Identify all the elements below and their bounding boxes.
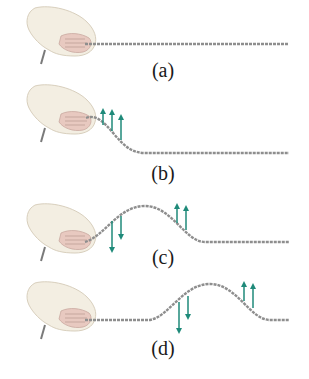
panel-label-d: (d) <box>151 338 174 358</box>
wave-pulse-diagram <box>0 0 309 379</box>
panel-a <box>27 7 289 64</box>
panel-d <box>27 282 289 339</box>
panel-b <box>27 85 289 153</box>
hand-icon <box>27 85 96 142</box>
panel-label-c: (c) <box>152 247 174 267</box>
rope <box>85 206 289 242</box>
hand-icon <box>27 7 96 64</box>
rope <box>86 117 289 153</box>
panel-label-b: (b) <box>151 163 174 183</box>
hand-icon <box>27 282 96 339</box>
hand-icon <box>27 204 96 261</box>
panel-label-a: (a) <box>152 60 174 80</box>
rope <box>85 284 289 320</box>
